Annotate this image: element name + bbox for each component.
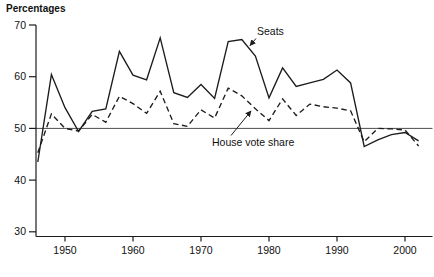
line-chart-figure: 7060504030195019601970198019902000Percen… — [0, 0, 434, 277]
x-tick-label: 1970 — [189, 244, 213, 256]
house-vote-share-annotation-arrow — [231, 111, 251, 136]
chart-canvas: 7060504030195019601970198019902000Percen… — [0, 0, 434, 277]
y-tick-label: 60 — [14, 70, 26, 82]
x-tick-label: 1950 — [53, 244, 77, 256]
y-tick-label: 30 — [14, 225, 26, 237]
house-vote-share-annotation-label: House vote share — [212, 136, 294, 148]
x-tick-label: 1980 — [257, 244, 281, 256]
x-tick-label: 2000 — [393, 244, 417, 256]
seats-annotation-label: Seats — [257, 25, 284, 37]
y-axis-title: Percentages — [6, 3, 66, 14]
y-tick-label: 50 — [14, 122, 26, 134]
y-tick-label: 70 — [14, 19, 26, 31]
y-tick-label: 40 — [14, 174, 26, 186]
x-tick-label: 1960 — [121, 244, 145, 256]
seats-annotation-arrow — [250, 39, 256, 46]
x-tick-label: 1990 — [325, 244, 349, 256]
